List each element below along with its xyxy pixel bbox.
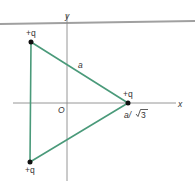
side-length-label: a [78,60,83,70]
charge-label-bottom-left: +q [25,165,35,175]
y-axis-label: y [64,11,70,21]
top-band [0,21,195,24]
charge-label-top-left: +q [26,28,36,38]
distance-label-radicand: 3 [141,110,146,120]
distance-label-prefix: a/ [124,110,133,120]
x-axis-label: x [177,99,183,109]
charge-right [126,101,131,106]
origin-label: O [58,105,65,115]
charge-top-left [29,40,34,45]
charge-bottom-left [28,160,33,165]
charge-label-right: +q [123,89,133,99]
charge-triangle-diagram: y x O +q +q +q a a/ 3 [0,0,195,183]
distance-label: a/ 3 [124,110,148,121]
